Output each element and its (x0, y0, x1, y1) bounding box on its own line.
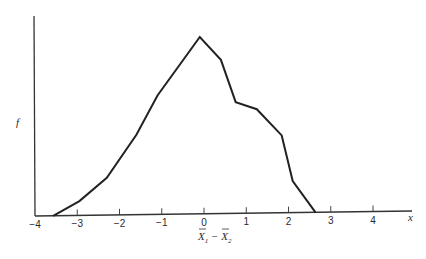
x-axis (35, 211, 412, 216)
frequency-polygon-chart: −4−3−2−101234 f x X1 − X2 (0, 0, 426, 259)
x-tick-label: −1 (156, 217, 168, 228)
x-tick-label: 1 (243, 216, 249, 227)
x-axis-end-label: x (407, 211, 413, 223)
x-tick-label: 2 (286, 216, 292, 227)
x-tick-label: −4 (29, 219, 41, 230)
x-tick-label: −3 (72, 218, 84, 229)
x-tick-labels: −4−3−2−101234 (29, 215, 376, 230)
frequency-polygon-line (53, 37, 315, 216)
y-axis (34, 16, 35, 216)
x-tick-label: −2 (114, 218, 126, 229)
x-tick-label: 3 (328, 215, 334, 226)
y-axis-label: f (16, 116, 21, 128)
x-axis-title: X1 − X2 (197, 229, 232, 245)
axes (34, 16, 412, 216)
x-tick-label: 4 (370, 215, 376, 226)
x-tick-label: 0 (201, 217, 207, 228)
x-axis-title-text: X1 − X2 (197, 230, 232, 245)
